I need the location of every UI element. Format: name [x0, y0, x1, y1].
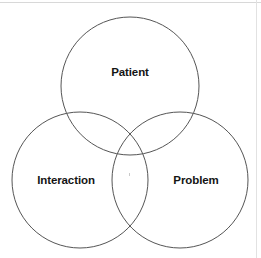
venn-label-interaction: Interaction — [37, 175, 95, 187]
venn-circles-group — [0, 0, 261, 258]
venn-label-patient: Patient — [111, 67, 149, 79]
center-artifact-mark — [129, 173, 130, 176]
venn-diagram-canvas: Patient Interaction Problem — [0, 0, 261, 258]
venn-label-problem: Problem — [173, 175, 218, 187]
